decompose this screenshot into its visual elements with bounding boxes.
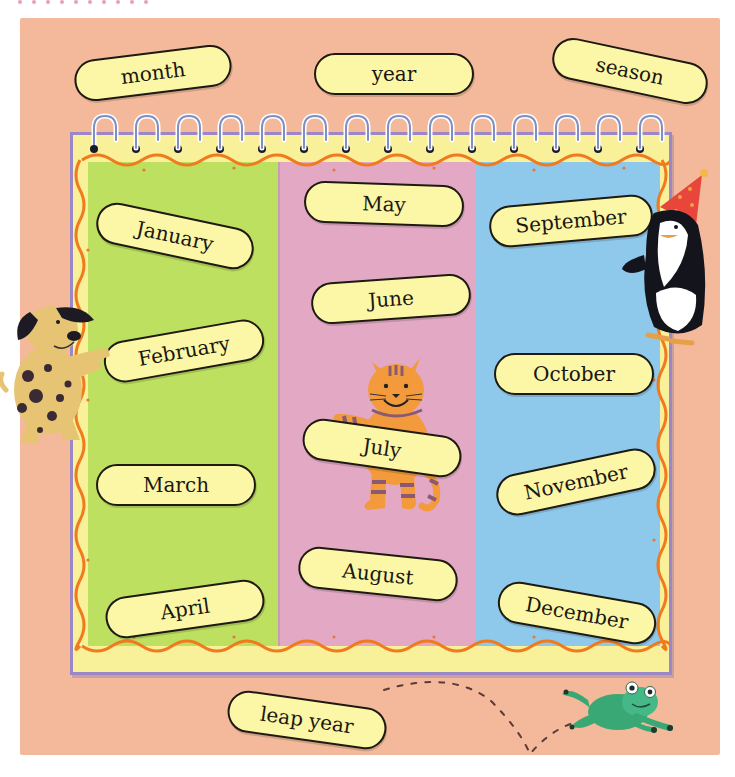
dog-illustration bbox=[0, 290, 115, 450]
frog-jump-trail bbox=[380, 670, 580, 760]
label-october[interactable]: October bbox=[494, 353, 654, 395]
frog-illustration bbox=[558, 672, 678, 742]
binding-rings bbox=[80, 112, 680, 162]
label-may[interactable]: May bbox=[303, 180, 464, 228]
label-year[interactable]: year bbox=[314, 53, 474, 95]
penguin-illustration bbox=[620, 165, 715, 350]
decorative-dots bbox=[18, 0, 148, 6]
label-march[interactable]: March bbox=[96, 464, 256, 506]
